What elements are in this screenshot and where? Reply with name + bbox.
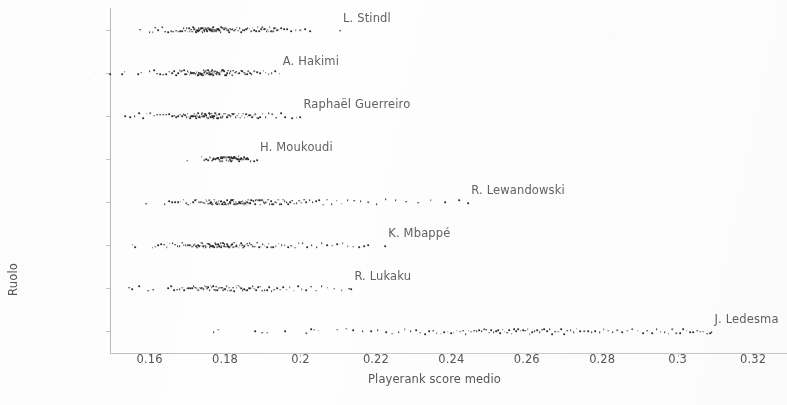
data-point [231,290,233,292]
data-point [368,201,370,203]
y-tick [106,288,110,289]
data-point [566,330,568,332]
x-tick-label: 0.32 [740,352,766,366]
data-point [153,69,155,71]
data-point [234,29,236,31]
data-point [164,203,166,205]
data-point [128,287,130,289]
data-point [272,246,274,248]
data-point [360,201,362,203]
data-point [557,331,559,333]
data-point [183,289,185,291]
data-point [450,333,452,335]
data-point [269,27,271,29]
data-point [129,116,131,118]
x-tick-label: 0.28 [589,352,615,366]
data-point [447,331,449,333]
data-point [529,333,531,335]
x-axis-label-text: Playerank score medio [368,372,501,386]
data-point [490,329,492,331]
data-point [696,330,698,332]
data-point [157,30,159,32]
data-point [346,328,348,330]
data-point [440,333,442,335]
y-tick [106,202,110,203]
data-point [179,245,181,247]
data-point [656,328,658,330]
data-point [311,244,313,246]
data-point [249,28,251,30]
x-tick-label: 0.3 [668,352,687,366]
data-point [476,330,478,332]
data-point [187,160,189,162]
data-point [362,330,364,332]
data-point [226,285,228,287]
data-point [217,289,219,291]
data-point [268,243,270,245]
data-point [458,200,460,202]
data-point [124,71,126,73]
data-point [192,201,194,203]
data-point [181,115,183,117]
data-point [444,201,446,203]
data-point [347,200,349,202]
data-point [150,113,152,115]
data-point [244,117,246,119]
data-point [223,70,225,72]
data-point [260,29,262,31]
data-point [392,333,394,335]
data-point [296,202,298,204]
data-point [276,288,278,290]
data-point [632,329,634,331]
data-point [238,247,240,249]
data-point [239,160,241,162]
data-point [693,331,695,333]
data-point [531,331,533,333]
data-point [187,113,189,115]
x-tick-label: 0.26 [514,352,540,366]
data-point [331,245,333,247]
data-point [336,200,338,202]
data-point [138,112,140,114]
data-point [398,331,400,333]
data-point [371,331,373,333]
data-point [152,247,154,249]
data-point [376,203,378,205]
data-point [260,72,262,74]
data-point [203,288,205,290]
y-axis-spine [110,8,111,353]
data-point [293,290,295,292]
data-point [249,202,251,204]
data-point [263,70,265,72]
data-point [278,29,280,31]
data-point [341,203,343,205]
data-point [266,289,268,291]
data-point [706,333,708,335]
data-point [473,330,475,332]
data-point [595,330,597,332]
data-point [228,287,230,289]
data-point [241,115,243,117]
data-point [221,117,223,119]
data-point [271,290,273,292]
annotation-label-r-lewandowski: R. Lewandowski [471,183,565,197]
data-point [274,289,276,291]
annotation-label-l-stindl: L. Stindl [343,11,391,25]
data-point [353,246,355,248]
data-point [587,330,589,332]
data-point [259,286,261,288]
data-point [459,331,461,333]
data-point [502,329,504,331]
data-point [617,329,619,331]
data-point [211,160,213,162]
data-point [236,27,238,29]
data-point [495,330,497,332]
data-point [239,27,241,29]
data-point [226,117,228,119]
data-point [240,31,242,33]
data-point [326,244,328,246]
data-point [156,73,158,75]
data-point [298,243,300,245]
data-point [191,246,193,248]
data-point [266,202,268,204]
